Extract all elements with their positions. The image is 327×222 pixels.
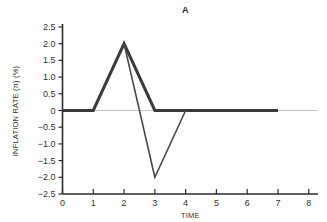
- chart-figure: A 2.52.01.51.00.50−0.5−1.0−1.5−2.0−2.5 0…: [0, 0, 327, 222]
- x-tick-label: 8: [306, 198, 311, 208]
- x-tick-label: 5: [214, 198, 219, 208]
- y-tick-label: 1.5: [10, 55, 56, 65]
- y-tick-label: −2.0: [10, 172, 56, 182]
- x-tick-label: 2: [122, 198, 127, 208]
- x-tick-label: 1: [91, 198, 96, 208]
- y-axis-label: INFLATION RATE (π) (%): [11, 65, 20, 156]
- x-tick-label: 0: [60, 198, 65, 208]
- y-tick-label: 2.0: [10, 39, 56, 49]
- y-tick-label: 2.5: [10, 22, 56, 32]
- x-axis-label: TIME: [181, 211, 200, 220]
- data-series-layer: [63, 44, 278, 178]
- x-tick-label: 6: [245, 198, 250, 208]
- x-tick-label: 7: [275, 198, 280, 208]
- x-tick-label: 4: [183, 198, 188, 208]
- y-tick-label: −1.5: [10, 156, 56, 166]
- y-tick-label: −2.5: [10, 189, 56, 199]
- x-tick-label: 3: [152, 198, 157, 208]
- data-series-line: [63, 44, 278, 111]
